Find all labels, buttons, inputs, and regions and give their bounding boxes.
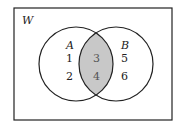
venn-diagram: W A B 1 2 3 4 5 6 bbox=[0, 0, 183, 124]
set-b-label: B bbox=[120, 39, 129, 52]
element-a-1: 1 bbox=[66, 52, 73, 65]
element-b-6: 6 bbox=[121, 70, 128, 83]
set-a-label: A bbox=[65, 39, 74, 52]
element-ab-3: 3 bbox=[93, 52, 100, 65]
element-a-2: 2 bbox=[66, 70, 73, 83]
universe-label: W bbox=[22, 14, 35, 27]
element-b-5: 5 bbox=[121, 52, 128, 65]
element-ab-4: 4 bbox=[93, 70, 100, 83]
